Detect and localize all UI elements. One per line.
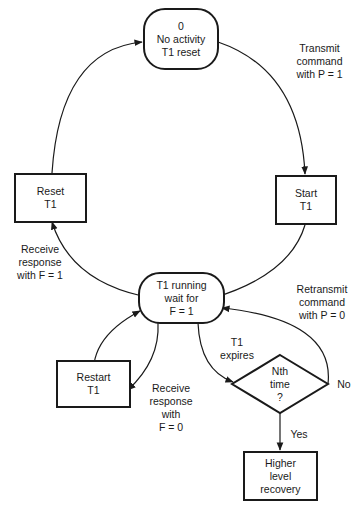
label-retransmit-command: Retransmit command with P = 0 xyxy=(285,283,359,322)
node-no-activity: 0 No activity T1 reset xyxy=(143,8,219,70)
node-start-t1: Start T1 xyxy=(275,175,337,225)
edge-receive-f0 xyxy=(128,323,158,390)
label-t1-expires: T1 expires xyxy=(215,336,259,362)
node-reset-t1: Reset T1 xyxy=(14,173,87,223)
label-transmit-command: Transmit command with P = 1 xyxy=(282,42,357,81)
node-restart-t1: Restart T1 xyxy=(56,360,131,408)
node-nth-time: Nth time ? xyxy=(250,360,310,408)
edge-reset-idle xyxy=(52,42,142,173)
node-higher-level-recovery: Higher level recovery xyxy=(243,451,318,501)
label-receive-f1: Receive response with F = 1 xyxy=(0,243,80,282)
label-no: No xyxy=(332,378,356,391)
label-yes: Yes xyxy=(284,428,314,441)
label-receive-f0: Receive response with F = 0 xyxy=(140,382,202,434)
node-t1-running: T1 running wait for F = 1 xyxy=(138,272,225,324)
